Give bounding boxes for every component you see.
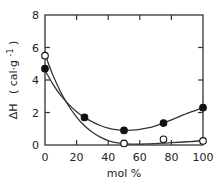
x-tick-label: 80 bbox=[164, 151, 178, 164]
data-point-filled bbox=[81, 114, 88, 121]
y-axis-label-exp: -1 bbox=[6, 48, 15, 56]
chart: 02040608010002468 mol % ΔH ( cal·g -1 ) bbox=[0, 0, 223, 189]
y-tick-label: 4 bbox=[32, 74, 39, 87]
y-axis-label: ΔH ( cal·g -1 ) bbox=[3, 41, 20, 120]
y-axis-label-unit: ( cal·g bbox=[7, 60, 20, 94]
markers bbox=[42, 52, 207, 146]
x-axis-label: mol % bbox=[107, 167, 141, 180]
x-tick-label: 20 bbox=[70, 151, 84, 164]
data-point-open bbox=[200, 138, 207, 145]
y-axis-label-close: ) bbox=[7, 41, 20, 45]
x-tick-label: 60 bbox=[133, 151, 147, 164]
y-axis-label-symbol: ΔH bbox=[7, 104, 20, 120]
y-tick-label: 0 bbox=[32, 139, 39, 152]
data-point-filled bbox=[160, 120, 167, 127]
x-tick-label: 100 bbox=[193, 151, 214, 164]
y-tick-label: 8 bbox=[32, 9, 39, 22]
data-point-filled bbox=[42, 65, 49, 72]
x-tick-label: 0 bbox=[42, 151, 49, 164]
data-point-filled bbox=[121, 127, 128, 134]
data-point-open bbox=[121, 140, 128, 147]
data-point-open bbox=[160, 136, 167, 143]
series-curve-filled bbox=[45, 70, 203, 130]
x-tick-label: 40 bbox=[101, 151, 115, 164]
y-tick-label: 6 bbox=[32, 42, 39, 55]
data-point-filled bbox=[200, 104, 207, 111]
y-tick-label: 2 bbox=[32, 107, 39, 120]
plot-frame bbox=[45, 15, 203, 145]
data-point-open bbox=[42, 52, 49, 59]
